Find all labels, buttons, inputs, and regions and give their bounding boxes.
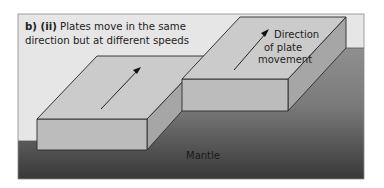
label-direction-line1: Direction <box>274 29 319 40</box>
plate-left-front-face <box>37 119 147 150</box>
label-mantle: Mantle <box>186 150 220 161</box>
caption-text-line2: direction but at different speeds <box>25 34 189 48</box>
plate-right-front-face <box>182 79 288 111</box>
caption-label: b) (ii) <box>25 21 57 32</box>
figure-caption: b) (ii) Plates move in the same directio… <box>25 20 189 48</box>
plate-movement-diagram: Direction of plate movement Mantle b) (i… <box>0 0 384 188</box>
label-direction-line3: movement <box>258 54 312 65</box>
caption-text-line1: Plates move in the same <box>60 21 186 32</box>
caption-line1: b) (ii) Plates move in the same <box>25 20 189 34</box>
label-direction-line2: of plate <box>264 42 302 53</box>
